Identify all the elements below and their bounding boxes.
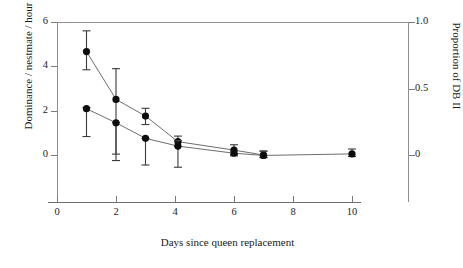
data-point-marker — [230, 150, 237, 157]
series-line — [87, 109, 353, 156]
data-point-marker — [112, 96, 119, 103]
series-group — [83, 31, 268, 159]
data-point-marker — [142, 112, 149, 119]
data-point-marker — [348, 150, 355, 157]
data-point-marker — [83, 105, 90, 112]
data-point-marker — [83, 48, 90, 55]
data-point-marker — [260, 152, 267, 159]
data-point-marker — [112, 119, 119, 126]
series-line — [87, 52, 264, 155]
series-group — [83, 105, 357, 167]
data-point-marker — [142, 135, 149, 142]
data-point-marker — [174, 143, 181, 150]
